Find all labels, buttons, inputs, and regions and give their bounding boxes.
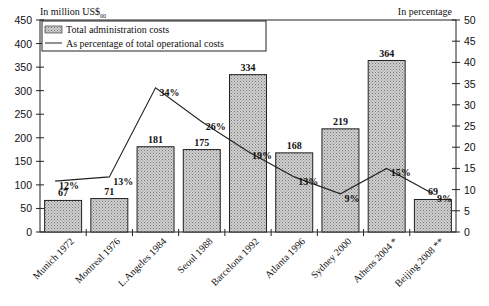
x-tick-label: Montreal 1976 (73, 236, 123, 286)
left-tick-label: 50 (20, 202, 32, 214)
x-tick-label: Atlanta 1996 (263, 236, 308, 281)
right-tick-label: 35 (464, 78, 476, 90)
left-tick-label: 150 (14, 155, 32, 167)
legend-bar-label: Total administration costs (66, 24, 169, 35)
left-tick-label: 300 (14, 85, 32, 97)
bar (276, 153, 313, 232)
bar (45, 200, 82, 232)
left-tick-label: 450 (14, 14, 32, 26)
bar (322, 129, 359, 232)
bar-value-label: 334 (241, 62, 256, 73)
line-value-label: 15% (391, 167, 411, 178)
right-tick-label: 40 (464, 56, 476, 68)
line-value-label: 12% (59, 180, 79, 191)
right-axis-title: In percentage (398, 6, 453, 17)
chart: In million US$00 In percentage 677118117… (0, 0, 489, 306)
right-tick-label: 5 (464, 205, 470, 217)
bar-series: 677118117533416821936469 (45, 48, 452, 232)
bar-value-label: 181 (148, 134, 163, 145)
bar-value-label: 175 (194, 137, 209, 148)
bar (91, 199, 128, 232)
x-tick-label: Beijing 2008 ** (393, 236, 446, 289)
bar-value-label: 71 (104, 186, 114, 197)
x-tick-label: Sydney 2000 (309, 236, 354, 281)
left-tick-label: 0 (26, 226, 32, 238)
left-tick-label: 250 (14, 108, 32, 120)
left-tick-label: 400 (14, 38, 32, 50)
line-value-label: 13% (298, 176, 318, 187)
left-tick-label: 350 (14, 61, 32, 73)
right-tick-label: 25 (464, 120, 476, 132)
left-tick-label: 200 (14, 132, 32, 144)
bar-value-label: 364 (379, 48, 394, 59)
bar (414, 199, 451, 232)
line-value-label: 19% (252, 150, 272, 161)
bar-value-label: 219 (333, 116, 348, 127)
bar-value-label: 168 (287, 140, 302, 151)
line-value-label: 9% (437, 193, 452, 204)
left-tick-label: 100 (14, 179, 32, 191)
bar (183, 150, 220, 232)
right-tick-label: 15 (464, 162, 476, 174)
legend-line-label: As percentage of total operational costs (66, 38, 224, 49)
bar (137, 147, 174, 232)
line-value-label: 26% (206, 121, 226, 132)
line-value-label: 13% (113, 176, 133, 187)
right-tick-label: 0 (464, 226, 470, 238)
legend-bar-swatch (45, 26, 62, 33)
x-tick-label: Athens 2004 * (351, 236, 400, 285)
left-axis-title: In million US$00 (40, 6, 106, 19)
legend: Total administration costs As percentage… (42, 21, 266, 51)
right-tick-label: 20 (464, 141, 476, 153)
right-tick-label: 45 (464, 35, 476, 47)
line-value-label: 9% (344, 193, 359, 204)
right-tick-label: 50 (464, 14, 476, 26)
x-tick-label: Munich 1972 (30, 236, 76, 282)
x-tick-label: Barcelona 1992 (209, 236, 261, 288)
right-tick-label: 30 (464, 99, 476, 111)
right-tick-label: 10 (464, 184, 476, 196)
line-value-label: 34% (160, 87, 180, 98)
x-tick-label: Seoul 1988 (175, 236, 215, 276)
x-axis: Munich 1972Montreal 1976L.Angeles 1984Se… (30, 229, 445, 289)
bar (368, 61, 405, 232)
x-tick-label: L.Angeles 1984 (116, 236, 169, 289)
